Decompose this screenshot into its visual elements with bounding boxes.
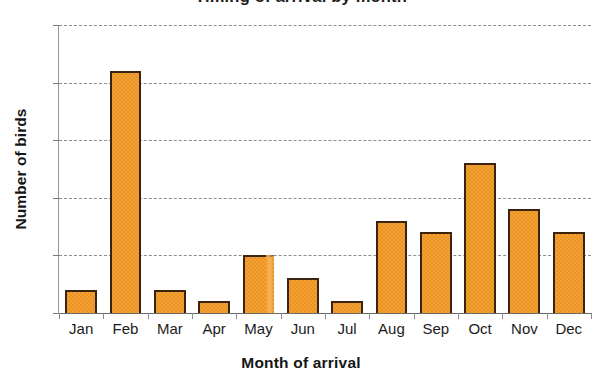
- x-tick-mark: [502, 313, 503, 319]
- bar-mar[interactable]: [154, 290, 186, 313]
- x-tick-label-feb: Feb: [103, 320, 147, 337]
- bar-slot: [369, 25, 413, 313]
- chart-title-cropped: Timing of arrival by month: [0, 0, 602, 11]
- bar-oct[interactable]: [464, 163, 496, 313]
- bar-slot: [281, 25, 325, 313]
- bar-slot: [59, 25, 103, 313]
- bar-slot: [236, 25, 280, 313]
- x-tick-mark: [369, 313, 370, 319]
- plot-area: 0510152025: [59, 25, 591, 313]
- x-axis-title: Month of arrival: [0, 354, 602, 372]
- bar-slot: [325, 25, 369, 313]
- x-tick-label-jul: Jul: [325, 320, 369, 337]
- bar-apr[interactable]: [198, 301, 230, 313]
- bar-slot: [502, 25, 546, 313]
- x-axis-tick-marks: [59, 313, 591, 320]
- x-tick-label-jan: Jan: [59, 320, 103, 337]
- bar-slot: [103, 25, 147, 313]
- bar-dec[interactable]: [553, 232, 585, 313]
- bars-layer: [59, 25, 591, 313]
- x-tick-mark: [325, 313, 326, 319]
- x-axis-tick-labels: JanFebMarAprMayJunJulAugSepOctNovDec: [59, 320, 591, 337]
- bar-aug[interactable]: [376, 221, 408, 313]
- bar-slot: [192, 25, 236, 313]
- bar-jun[interactable]: [287, 278, 319, 313]
- bar-jan[interactable]: [65, 290, 97, 313]
- x-tick-mark: [414, 313, 415, 319]
- y-axis-title: Number of birds: [12, 74, 30, 264]
- chart-title: Timing of arrival by month: [195, 0, 407, 6]
- bar-sep[interactable]: [420, 232, 452, 313]
- x-tick-mark: [591, 313, 592, 319]
- x-tick-mark: [281, 313, 282, 319]
- x-tick-label-nov: Nov: [502, 320, 546, 337]
- x-tick-mark: [547, 313, 548, 319]
- bar-slot: [458, 25, 502, 313]
- bar-jul[interactable]: [331, 301, 363, 313]
- x-tick-mark: [103, 313, 104, 319]
- x-tick-mark: [59, 313, 60, 319]
- bar-slot: [547, 25, 591, 313]
- x-tick-mark: [458, 313, 459, 319]
- x-tick-label-jun: Jun: [281, 320, 325, 337]
- x-tick-mark: [148, 313, 149, 319]
- bar-nov[interactable]: [508, 209, 540, 313]
- x-tick-label-mar: Mar: [148, 320, 192, 337]
- bar-may[interactable]: [243, 255, 275, 313]
- x-tick-mark: [236, 313, 237, 319]
- x-tick-label-oct: Oct: [458, 320, 502, 337]
- x-tick-label-aug: Aug: [369, 320, 413, 337]
- x-tick-label-apr: Apr: [192, 320, 236, 337]
- x-tick-mark: [192, 313, 193, 319]
- bar-feb[interactable]: [110, 71, 142, 313]
- x-tick-label-dec: Dec: [547, 320, 591, 337]
- bar-chart-figure: Timing of arrival by month Number of bir…: [0, 0, 602, 382]
- x-tick-label-sep: Sep: [414, 320, 458, 337]
- bar-slot: [414, 25, 458, 313]
- bar-slot: [148, 25, 192, 313]
- x-tick-label-may: May: [236, 320, 280, 337]
